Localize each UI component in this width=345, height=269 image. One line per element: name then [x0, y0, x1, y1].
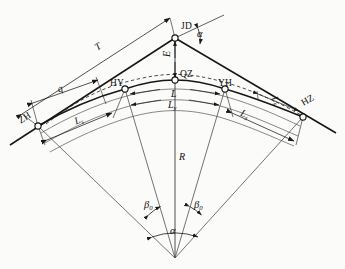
Ly-arrow-left: [131, 100, 161, 105]
label-qz: QZ: [180, 70, 193, 80]
marker-hz: [300, 114, 306, 120]
tangent-dimension-T: [22, 18, 175, 126]
right-tangent-line: [175, 38, 336, 133]
marker-zh: [35, 123, 41, 129]
label-beta-right-sub: 0: [199, 204, 202, 211]
marker-qz: [172, 77, 178, 83]
label-beta-left: β0: [144, 200, 153, 212]
radial-from-zh: [38, 126, 175, 258]
label-circular-Ly: Ly: [168, 100, 177, 112]
transition-curve-diagram: JD ZH HY QZ YH HZ T E q L Ly Ls Ls Ls R …: [0, 0, 345, 269]
radial-from-yh: [175, 89, 225, 258]
exit-spiral-right: [225, 89, 303, 117]
T-dim-line: [22, 18, 170, 114]
Ls-right-witness-a: [225, 89, 233, 117]
Ls-far-witness: [257, 91, 258, 99]
spiral-dimension-Ls-right: [225, 89, 303, 145]
radial-from-hz: [175, 117, 303, 258]
Ls-left-witness-b: [113, 89, 125, 118]
label-beta-left-sub: 0: [149, 204, 152, 211]
label-jd: JD: [181, 22, 192, 32]
label-circular-Ly-sub: y: [174, 104, 177, 111]
q-dim-line: [33, 80, 98, 103]
inner-arc-Ls: [50, 111, 294, 152]
label-alpha-center: α: [170, 226, 176, 237]
Ly-arrow-right: [189, 100, 219, 105]
marker-jd: [172, 35, 178, 41]
radial-from-hy: [125, 89, 175, 258]
left-tangent-line: [10, 38, 175, 145]
label-beta-right: β0: [194, 200, 203, 212]
label-radius-R: R: [179, 152, 185, 162]
q-witness-right: [96, 77, 106, 104]
L-arrow-right: [190, 89, 220, 94]
label-external-E: E: [162, 51, 172, 57]
label-curve-L: L: [171, 89, 177, 99]
label-alpha-apex: α: [197, 29, 203, 40]
label-yh: YH: [218, 79, 232, 89]
L-arrow-left: [130, 89, 160, 94]
label-hy: HY: [110, 79, 124, 89]
